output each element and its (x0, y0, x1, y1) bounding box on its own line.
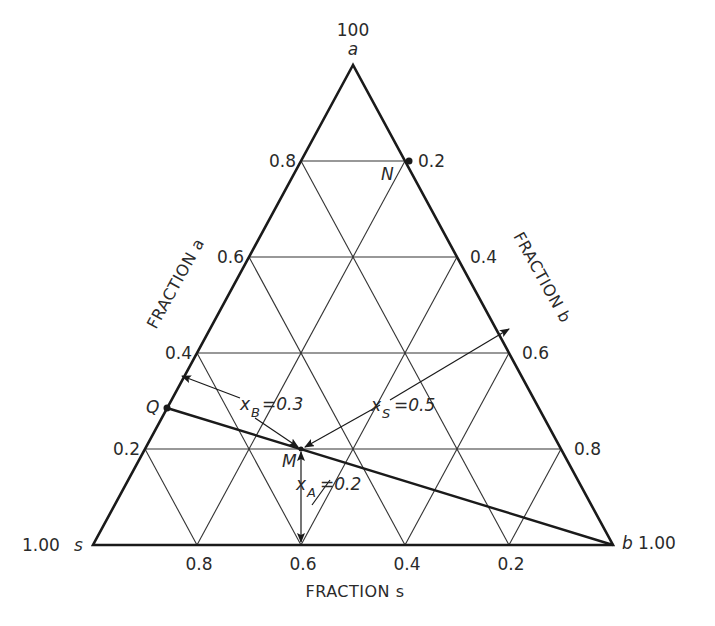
vertex-a-label: a (348, 39, 358, 59)
left-tick-0.6: 0.6 (217, 247, 244, 267)
axis-title-bottom: FRACTION s (306, 582, 405, 601)
svg-text:A: A (306, 485, 316, 500)
svg-text:S: S (382, 406, 390, 421)
vertex-a-value: 100 (337, 20, 369, 40)
left-tick-0.8: 0.8 (269, 151, 296, 171)
point-m (299, 447, 304, 452)
bottom-tick-0.8: 0.8 (185, 554, 212, 574)
point-q (164, 405, 171, 412)
point-q-label: Q (146, 397, 159, 417)
right-tick-0.4: 0.4 (470, 247, 497, 267)
left-tick-0.2: 0.2 (113, 439, 140, 459)
point-n (406, 158, 413, 165)
vertex-b-value: 1.00 (638, 533, 676, 553)
svg-text:x: x (295, 474, 307, 494)
svg-text:=0.5: =0.5 (394, 395, 435, 415)
vertex-s-value: 1.00 (22, 535, 60, 555)
left-tick-0.4: 0.4 (165, 343, 192, 363)
point-n-label: N (381, 164, 394, 184)
svg-text:B: B (251, 405, 260, 420)
annotation-xb: x B =0.3 (239, 394, 303, 420)
right-tick-0.6: 0.6 (522, 343, 549, 363)
bottom-tick-0.6: 0.6 (289, 554, 316, 574)
bottom-tick-0.4: 0.4 (393, 554, 420, 574)
annotation-xs: x S =0.5 (370, 395, 435, 421)
svg-text:x: x (370, 395, 382, 415)
right-tick-0.2: 0.2 (418, 151, 445, 171)
axis-title-right: FRACTION b (510, 229, 575, 326)
point-m-label: M (282, 451, 297, 471)
axis-title-left: FRACTION a (143, 235, 208, 332)
bottom-tick-0.2: 0.2 (497, 554, 524, 574)
vertex-s-label: s (74, 535, 83, 555)
vertex-b-label: b (622, 533, 633, 553)
ternary-diagram: 100 a 1.00 s b 1.00 0.8 0.6 0.4 0.2 0.2 … (0, 0, 715, 626)
svg-text:=0.3: =0.3 (262, 394, 303, 414)
annotation-xa: x A =0.2 (295, 474, 361, 500)
svg-text:=0.2: =0.2 (320, 474, 361, 494)
right-tick-0.8: 0.8 (574, 439, 601, 459)
svg-text:x: x (239, 394, 251, 414)
